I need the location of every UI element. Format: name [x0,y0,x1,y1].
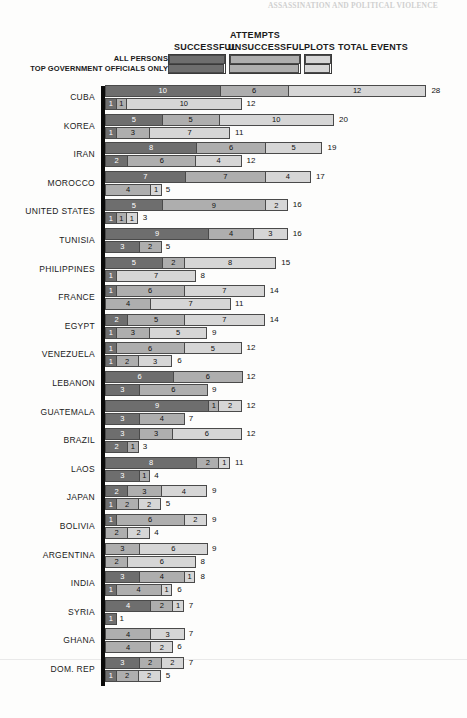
bar-segment-unsuccessful: 2 [116,355,139,367]
country-label: EGYPT [5,321,95,331]
bar-segment-unsuccessful: 1 [139,470,151,482]
segment-value: 1 [188,573,192,581]
bar-segment-plots: 1 [184,571,196,583]
country-label: ARGENTINA [5,550,95,560]
bar-segment-successful: 9 [105,400,209,412]
stacked-bar-top_officials: 141 [105,584,172,596]
stacked-bar-all_persons: 821 [105,457,230,469]
stacked-bar-all_persons: 774 [105,171,311,183]
bar-total-label: 11 [232,457,243,469]
bar-total-label: 6 [174,584,181,596]
segment-value: 3 [153,358,157,366]
bar-segment-unsuccessful: 4 [208,228,254,240]
bar-total-label: 7 [186,628,193,640]
country-label: KOREA [5,121,95,131]
stacked-bar-all_persons: 165 [105,342,242,354]
segment-value: 7 [223,173,227,181]
bar-segment-successful: 4 [105,600,151,612]
bar-segment-plots: 1 [150,184,162,196]
bar-segment-successful: 3 [105,384,140,396]
bar-segment-unsuccessful: 6 [196,142,265,154]
segment-value: 3 [131,329,135,337]
bar-segment-plots: 3 [138,355,173,367]
chart-legend: ATTEMPTS SUCCESSFUL UNSUCCESSFUL PLOTS T… [0,30,467,82]
bar-total-label: 20 [336,114,348,126]
segment-value: 2 [125,501,129,509]
segment-value: 1 [109,100,113,108]
bar-segment-unsuccessful: 2 [139,657,162,669]
segment-value: 1 [119,215,123,223]
bar-segment-plots: 4 [161,485,207,497]
bar-segment-plots: 2 [138,670,161,682]
country-label: DOM. REP [5,664,95,674]
bar-segment-unsuccessful: 3 [139,428,174,440]
segment-value: 10 [180,100,188,108]
bar-segment-plots: 2 [150,641,173,653]
segment-value: 5 [176,329,180,337]
segment-value: 1 [109,329,113,337]
segment-value: 1 [176,602,180,610]
segment-value: 4 [229,230,233,238]
bar-segment-plots: 2 [218,400,241,412]
segment-value: 4 [126,300,130,308]
bar-segment-successful: 9 [105,228,209,240]
stacked-bar-top_officials: 21 [105,441,139,453]
segment-value: 4 [160,415,164,423]
stacked-bar-all_persons: 162 [105,514,207,526]
legend-swatch-unsuccessful-all [230,55,300,64]
stacked-bar-all_persons: 10612 [105,85,426,97]
segment-value: 3 [142,488,146,496]
bar-total-label: 5 [163,241,170,253]
segment-value: 2 [170,659,174,667]
bar-segment-successful: 3 [105,470,140,482]
chart-row-tunisia: TUNISIA94316325 [0,227,467,255]
segment-value: 5 [132,202,136,210]
stacked-bar-all_persons: 257 [105,314,265,326]
bar-total-label: 11 [232,127,243,139]
bar-segment-unsuccessful: 2 [196,457,219,469]
legend-header-total-events: TOTAL EVENTS [338,42,408,52]
segment-value: 2 [274,202,278,210]
segment-value: 1 [109,345,113,353]
segment-value: 1 [164,586,168,594]
legend-attempts-title: ATTEMPTS [170,30,340,40]
segment-value: 4 [182,488,186,496]
segment-value: 1 [109,287,113,295]
segment-value: 7 [154,272,158,280]
country-label: BOLIVIA [5,521,95,531]
segment-value: 3 [268,230,272,238]
bar-segment-unsuccessful: 2 [139,241,162,253]
segment-value: 10 [159,87,167,95]
country-label: VENEZUELA [5,349,95,359]
stacked-bar-all_persons: 912 [105,400,242,412]
bar-segment-plots: 1 [126,212,138,224]
legend-swatch-successful [168,54,226,74]
segment-value: 1 [109,501,113,509]
bar-segment-unsuccessful: 6 [220,85,289,97]
segment-value: 2 [147,501,151,509]
bar-total-label: 15 [278,257,290,269]
bar-total-label: 16 [290,199,302,211]
chart-row-dom-rep: DOM. REP32271225 [0,656,467,684]
bar-total-label: 7 [186,657,193,669]
bar-segment-successful: 3 [105,428,140,440]
segment-value: 2 [114,488,118,496]
bar-total-label: 5 [163,184,170,196]
legend-row-labels: ALL PERSONS TOP GOVERNMENT OFFICIALS ONL… [30,54,168,73]
bar-segment-plots: 2 [265,199,288,211]
bar-segment-successful: 3 [105,241,140,253]
bar-segment-plots: 3 [150,628,185,640]
segment-value: 1 [109,272,113,280]
stacked-bar-top_officials: 22 [105,527,150,539]
segment-value: 2 [125,358,129,366]
stacked-bar-top_officials: 135 [105,327,207,339]
segment-value: 7 [222,316,226,324]
segment-value: 1 [109,516,113,524]
bar-total-label: 9 [209,514,216,526]
stacked-bar-all_persons: 528 [105,257,276,269]
segment-value: 7 [143,173,147,181]
segment-value: 1 [212,402,216,410]
segment-value: 1 [109,215,113,223]
legend-swatch-plots [304,54,332,74]
country-label: LEBANON [5,378,95,388]
